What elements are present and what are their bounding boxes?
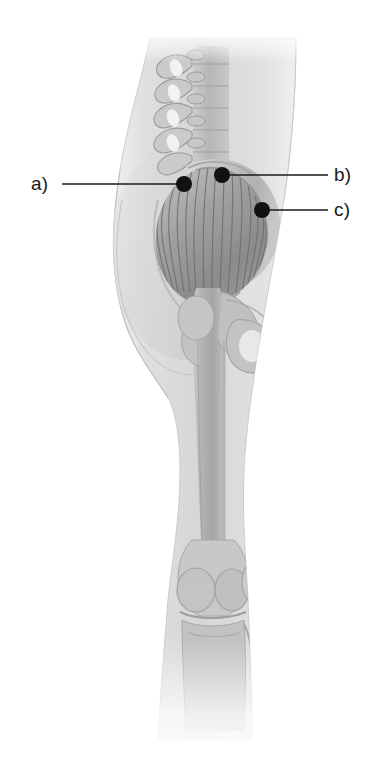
annotation-marker-b	[214, 167, 230, 183]
anatomy-figure: a) b) c)	[0, 0, 381, 775]
annotation-label-a: a)	[31, 174, 48, 193]
patella	[242, 562, 266, 602]
annotation-label-c: c)	[334, 200, 350, 219]
top-fade	[120, 28, 300, 62]
bottom-fade	[120, 640, 300, 775]
anatomy-illustration	[0, 0, 381, 775]
annotation-label-b: b)	[334, 165, 351, 184]
ischial-tuberosity	[226, 320, 276, 373]
annotation-marker-c	[254, 202, 270, 218]
annotation-marker-a	[176, 176, 192, 192]
